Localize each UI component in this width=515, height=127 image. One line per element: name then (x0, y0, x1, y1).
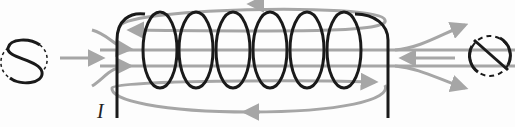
solenoid-diagram: I (0, 0, 515, 127)
south-pole-symbol (1, 40, 47, 83)
north-pole-symbol (470, 36, 511, 76)
diagram-graphic (0, 0, 515, 127)
current-label: I (97, 100, 104, 123)
